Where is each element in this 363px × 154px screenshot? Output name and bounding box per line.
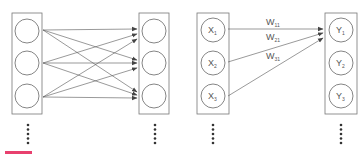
connections xyxy=(43,29,137,98)
ellipsis-dots-left-output xyxy=(154,124,157,145)
y-node-1-subscript: 1 xyxy=(342,30,345,36)
output-node-1 xyxy=(142,19,166,43)
caption-accent-bar xyxy=(5,151,32,154)
output-layer-box xyxy=(139,13,169,114)
weighted-connections-diagram: X1 X2 X3 Y1 Y2 Y3 W11 W21 W31 xyxy=(197,13,357,144)
svg-text:W31: W31 xyxy=(266,51,280,62)
svg-text:X3: X3 xyxy=(208,91,217,102)
input-node-1 xyxy=(15,19,39,43)
neural-network-diagrams: X1 X2 X3 Y1 Y2 Y3 W11 W21 W31 xyxy=(0,0,363,154)
svg-text:W11: W11 xyxy=(266,17,280,28)
y-node-2-subscript: 2 xyxy=(342,63,345,69)
output-node-2 xyxy=(142,51,166,75)
weight-w31-subscript: 31 xyxy=(275,56,281,62)
ellipsis-dots-x-layer xyxy=(212,124,215,145)
x-node-2-subscript: 2 xyxy=(214,63,217,69)
svg-text:X1: X1 xyxy=(208,25,217,36)
weight-w11-subscript: 11 xyxy=(275,22,280,28)
ellipsis-dots-y-layer xyxy=(340,124,343,145)
svg-text:W21: W21 xyxy=(266,32,280,43)
input-node-2 xyxy=(15,51,39,75)
svg-text:Y1: Y1 xyxy=(336,25,345,36)
fully-connected-diagram xyxy=(12,13,169,144)
weight-w21-subscript: 21 xyxy=(275,37,281,43)
x-node-3-subscript: 3 xyxy=(214,96,217,102)
svg-text:Y2: Y2 xyxy=(336,58,345,69)
input-layer-box xyxy=(12,13,42,114)
svg-text:Y3: Y3 xyxy=(336,91,345,102)
y-node-3-subscript: 3 xyxy=(342,96,345,102)
output-node-3 xyxy=(142,84,166,108)
svg-text:X2: X2 xyxy=(208,58,217,69)
ellipsis-dots-left-input xyxy=(27,124,30,145)
x-node-1-subscript: 1 xyxy=(214,30,217,36)
input-node-3 xyxy=(15,84,39,108)
